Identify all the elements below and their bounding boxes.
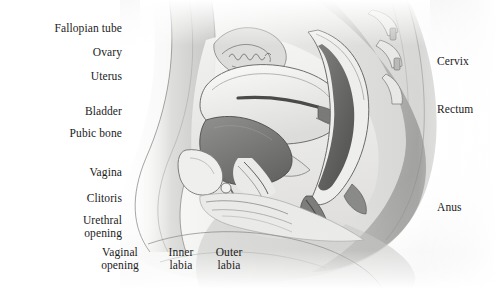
label-bladder: Bladder xyxy=(0,105,122,118)
label-outer-labia: Outer labia xyxy=(205,246,253,271)
label-anus: Anus xyxy=(437,201,462,214)
label-vagina: Vagina xyxy=(0,166,122,179)
label-pubic-bone: Pubic bone xyxy=(0,127,122,140)
label-rectum: Rectum xyxy=(437,103,473,116)
label-fallopian-tube: Fallopian tube xyxy=(0,22,122,35)
label-ovary: Ovary xyxy=(0,46,122,59)
label-vaginal-opening: Vaginal opening xyxy=(84,246,156,271)
label-clitoris: Clitoris xyxy=(0,192,122,205)
label-urethral-opening: Urethral opening xyxy=(0,214,122,239)
label-uterus: Uterus xyxy=(0,70,122,83)
label-inner-labia: Inner labia xyxy=(158,246,204,271)
figure-canvas: Fallopian tube Ovary Uterus Bladder Pubi… xyxy=(0,0,498,289)
label-cervix: Cervix xyxy=(437,55,469,68)
